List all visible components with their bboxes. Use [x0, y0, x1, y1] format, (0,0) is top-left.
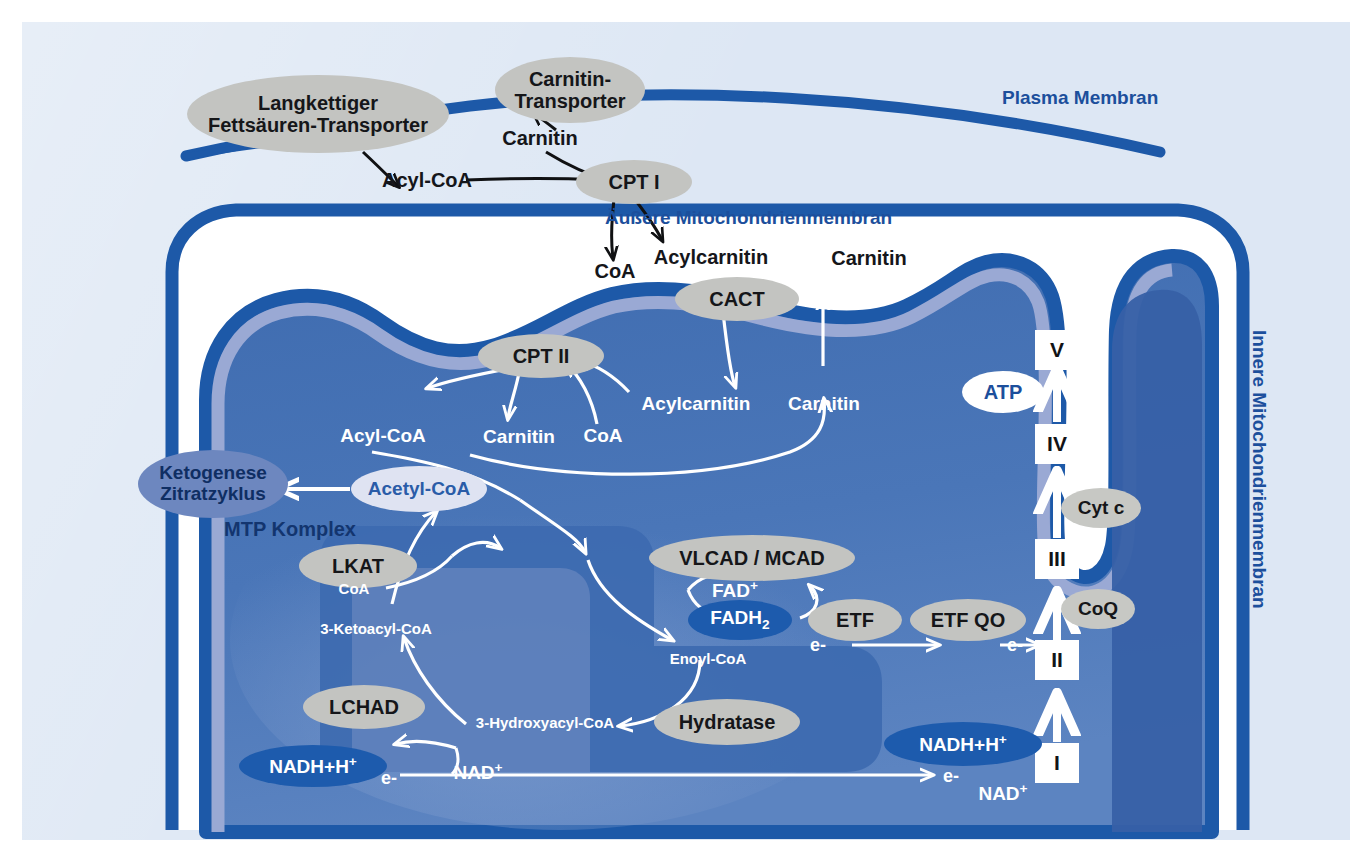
mtp-complex-label: MTP Komplex — [224, 519, 356, 541]
cpt1-label: CPT I — [608, 171, 659, 193]
complex-IV[interactable]: IV — [1035, 424, 1079, 464]
nadh-right-text: NADH+H — [919, 734, 999, 755]
citrate-cycle-label: Zitratzyklus — [160, 483, 266, 504]
fadh2-node[interactable]: FADH2 — [688, 600, 792, 640]
complex-III-label: III — [1048, 547, 1066, 571]
complex-V-label: V — [1050, 338, 1064, 362]
carnitine-transporter-line1: Carnitin- — [529, 68, 611, 90]
carnitin-matrix-label: Carnitin — [483, 427, 555, 448]
carnitine-transporter[interactable]: Carnitin- Transporter — [495, 57, 645, 123]
figure-canvas: Plasma Membran Äußere Mitochondrienmembr… — [0, 0, 1369, 864]
nad-right-superscript: + — [1020, 781, 1028, 796]
fad-superscript: + — [750, 578, 758, 593]
etf-enzyme[interactable]: ETF — [808, 599, 902, 641]
fadh2-text: FADH — [710, 607, 762, 628]
plasma-membrane-label: Plasma Membran — [1002, 88, 1158, 109]
etf-label: ETF — [836, 609, 874, 631]
acylcarnitin-matrix-label: Acylcarnitin — [642, 394, 751, 415]
nadh-left-text: NADH+H — [269, 756, 349, 777]
nadh-right-superscript: + — [999, 732, 1007, 747]
acyl-coa-matrix-label: Acyl-CoA — [340, 426, 426, 447]
coq-label: CoQ — [1078, 599, 1118, 620]
coa-matrix-label: CoA — [583, 426, 622, 447]
lchad-enzyme[interactable]: LCHAD — [303, 685, 425, 729]
cpt1-enzyme[interactable]: CPT I — [576, 160, 692, 204]
fatty-acid-transporter[interactable]: Langkettiger Fettsäuren-Transporter — [187, 75, 449, 153]
inner-membrane-label: Innere Mitochondrienmembran — [1248, 330, 1269, 609]
vlcad-mcad-label: VLCAD / MCAD — [679, 547, 825, 569]
nad-right-label: NAD+ — [978, 782, 1027, 805]
fa-transporter-line1: Langkettiger — [258, 92, 378, 114]
nad-left-text: NAD — [453, 762, 494, 783]
hydratase-enzyme[interactable]: Hydratase — [654, 699, 800, 745]
fad-label: FAD+ — [712, 579, 758, 602]
coa-ims-label: CoA — [594, 261, 635, 283]
fa-transporter-line2: Fettsäuren-Transporter — [208, 114, 428, 136]
electron-nadh-left-label: e- — [381, 769, 397, 788]
acylcarnitin-ims-label: Acylcarnitin — [654, 247, 768, 269]
vlcad-mcad-enzyme[interactable]: VLCAD / MCAD — [649, 535, 855, 581]
atp-label: ATP — [984, 381, 1023, 403]
enoyl-coa-label: Enoyl-CoA — [670, 651, 747, 667]
electron-nadh-right-label: e- — [943, 767, 959, 786]
nad-left-label: NAD+ — [453, 761, 502, 784]
fadh2-subscript: 2 — [762, 617, 770, 632]
cytc-carrier[interactable]: Cyt c — [1061, 488, 1141, 528]
nad-left-superscript: + — [495, 760, 503, 775]
ketoacyl-coa-label: 3-Ketoacyl-CoA — [320, 621, 432, 637]
nad-right-text: NAD — [978, 783, 1019, 804]
lchad-label: LCHAD — [329, 696, 399, 718]
carnitin-cytosol-label: Carnitin — [502, 128, 578, 150]
acetyl-coa-node[interactable]: Acetyl-CoA — [351, 466, 487, 512]
carnitine-transporter-line2: Transporter — [514, 90, 625, 112]
complex-III[interactable]: III — [1035, 539, 1079, 579]
etfqo-label: ETF QO — [931, 609, 1005, 631]
complex-V[interactable]: V — [1035, 330, 1079, 370]
nadh-left-superscript: + — [349, 754, 357, 769]
nadh-left-node[interactable]: NADH+H+ — [239, 745, 387, 787]
electron-fadh2-label: e- — [810, 636, 826, 655]
complex-IV-label: IV — [1047, 432, 1067, 456]
hydroxyacyl-coa-label: 3-Hydroxyacyl-CoA — [476, 715, 614, 731]
complex-II[interactable]: II — [1035, 640, 1079, 680]
cpt2-enzyme[interactable]: CPT II — [478, 334, 604, 378]
acyl-coa-cytosol-label: Acyl-CoA — [382, 170, 472, 192]
atp-node[interactable]: ATP — [962, 371, 1044, 413]
complex-II-label: II — [1051, 648, 1063, 672]
coa-mtp-label: CoA — [339, 581, 370, 597]
ketogenesis-label: Ketogenese — [159, 462, 267, 483]
ketogenesis-citratecycle-node[interactable]: Ketogenese Zitratzyklus — [138, 450, 288, 518]
complex-I-label: I — [1054, 751, 1060, 775]
coq-carrier[interactable]: CoQ — [1061, 589, 1135, 629]
lkat-label: LKAT — [332, 555, 384, 577]
outer-membrane-label: Äußere Mitochondrienmembran — [605, 208, 892, 229]
carnitin-matrix-right-label: Carnitin — [788, 394, 860, 415]
complex-I[interactable]: I — [1035, 743, 1079, 783]
cact-label: CACT — [709, 288, 765, 310]
nadh-right-node[interactable]: NADH+H+ — [884, 722, 1042, 766]
electron-etfqo-label: e- — [1007, 636, 1023, 655]
acetyl-coa-label: Acetyl-CoA — [368, 479, 470, 500]
fad-text: FAD — [712, 580, 750, 601]
cact-enzyme[interactable]: CACT — [675, 277, 799, 321]
cytc-label: Cyt c — [1078, 498, 1124, 519]
hydratase-label: Hydratase — [679, 711, 776, 733]
carnitin-ims-label: Carnitin — [831, 248, 907, 270]
cpt2-label: CPT II — [513, 345, 570, 367]
